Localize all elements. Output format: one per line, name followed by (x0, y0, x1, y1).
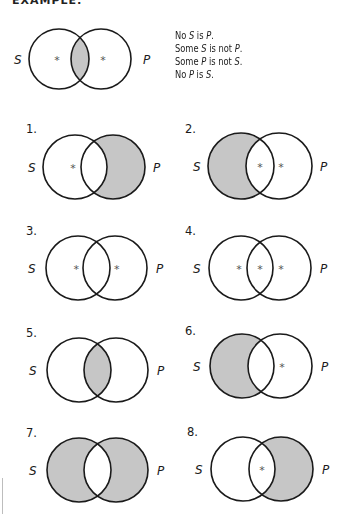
label-s: S (29, 464, 37, 478)
existence-star-right: * (278, 263, 284, 276)
exercise-number: 6. (185, 324, 196, 338)
venn-diagram-3: **SP3. (26, 224, 164, 300)
statement-line: Some P is not S. (175, 55, 242, 68)
statement-text: No (175, 29, 189, 41)
label-s: S (29, 364, 37, 378)
statement-text: is (194, 29, 206, 41)
label-p: P (322, 463, 330, 477)
page-edge-line (2, 478, 3, 514)
label-p: P (156, 262, 164, 276)
label-s: S (193, 262, 201, 276)
existence-star-right: * (114, 263, 120, 276)
venn-diagram-7: SP7. (26, 426, 165, 502)
statement-text: No (175, 68, 189, 80)
label-s: S (193, 360, 201, 374)
venn-diagram-4: ***SP4. (185, 224, 328, 300)
existence-star-middle: * (257, 263, 263, 276)
venn-diagram-1: *SP1. (26, 122, 161, 199)
exercise-number: 2. (185, 122, 196, 136)
label-s: S (28, 262, 36, 276)
exercise-number: 5. (26, 326, 37, 340)
exercise-number: 4. (185, 224, 196, 238)
statement-text: is not (206, 55, 234, 67)
venn-diagram-5: SP5. (26, 326, 165, 402)
venn-diagram-8: *SP8. (187, 425, 330, 501)
venn-diagram-6: *SP6. (185, 324, 329, 398)
exercise-number: 8. (187, 425, 198, 439)
label-s: S (195, 463, 203, 477)
label-p: P (157, 464, 165, 478)
existence-star-left: * (54, 54, 60, 67)
existence-star-left: * (70, 162, 76, 175)
label-p: P (321, 360, 329, 374)
existence-star-middle: * (257, 161, 263, 174)
existence-star-left: * (236, 263, 242, 276)
label-p: P (320, 160, 328, 174)
existence-star-left: * (73, 263, 79, 276)
existence-star-middle: * (259, 464, 265, 477)
statement-text: . (240, 42, 243, 54)
statement-text: is not (207, 42, 235, 54)
statement-text: . (240, 55, 243, 67)
statement-text: . (211, 29, 214, 41)
statement-line: Some S is not P. (175, 42, 242, 55)
label-p: P (157, 364, 165, 378)
existence-star-right: * (100, 54, 106, 67)
exercise-number: 7. (26, 426, 37, 440)
statement-line: No P is S. (175, 68, 242, 81)
label-p: P (320, 262, 328, 276)
statement-text: Some (175, 42, 201, 54)
label-p: P (153, 161, 161, 175)
venn-diagram-2: **SP2. (185, 122, 328, 199)
example-statements: No S is P.Some S is not P.Some P is not … (175, 29, 242, 81)
statement-line: No S is P. (175, 29, 242, 42)
label-s: S (193, 160, 201, 174)
statement-text: Some (175, 55, 201, 67)
venn-diagram-example: **SP (14, 29, 151, 89)
exercise-number: 3. (26, 224, 37, 238)
label-s: S (28, 161, 36, 175)
statement-text: is (194, 68, 206, 80)
label-s: S (14, 53, 22, 67)
exercise-number: 1. (26, 122, 37, 136)
statement-text: . (211, 68, 214, 80)
existence-star-right: * (279, 361, 285, 374)
existence-star-right: * (278, 161, 284, 174)
diagram-canvas: **SP*SP1.**SP2.**SP3.***SP4.SP5.*SP6.SP7… (0, 0, 340, 514)
label-p: P (143, 53, 151, 67)
